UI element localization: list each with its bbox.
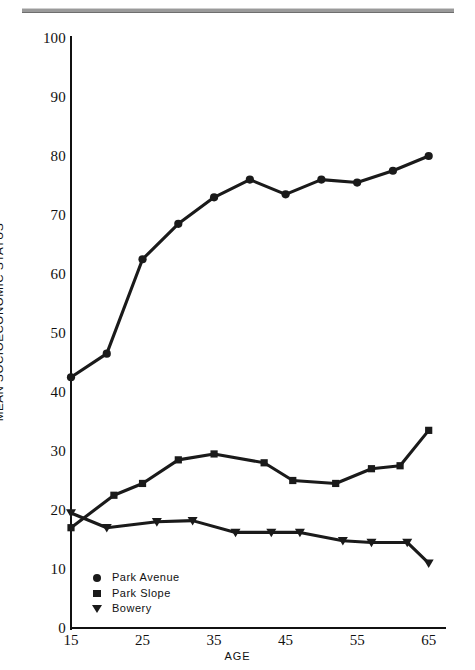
data-point-marker — [175, 456, 182, 463]
legend-item-bowery: Bowery — [88, 601, 180, 617]
filled-square-icon — [88, 590, 106, 598]
data-point-marker — [353, 178, 361, 186]
legend-item-park-slope: Park Slope — [88, 586, 180, 602]
data-point-marker — [138, 255, 146, 263]
data-point-marker — [110, 492, 117, 499]
data-point-marker — [261, 459, 268, 466]
data-point-marker — [139, 480, 146, 487]
series-line — [71, 513, 429, 563]
data-point-marker — [289, 477, 296, 484]
data-point-marker — [368, 465, 375, 472]
legend-label: Bowery — [106, 601, 152, 617]
chart-page: 1009080706050403020100 152535455565 MEAN… — [0, 0, 475, 670]
chart-legend: Park Avenue Park Slope Bowery — [88, 570, 180, 617]
series-line — [71, 430, 429, 527]
data-point-marker — [246, 176, 254, 184]
filled-circle-icon — [88, 574, 106, 582]
data-point-marker — [424, 559, 434, 568]
filled-triangle-down-icon — [88, 605, 106, 613]
data-point-marker — [425, 427, 432, 434]
data-point-marker — [103, 350, 111, 358]
data-point-marker — [332, 480, 339, 487]
data-point-marker — [389, 167, 397, 175]
data-point-marker — [396, 462, 403, 469]
chart-plot-area — [0, 0, 475, 670]
data-point-marker — [210, 450, 217, 457]
data-point-marker — [210, 193, 218, 201]
series-bowery — [66, 509, 434, 568]
series-park-slope — [67, 427, 432, 532]
data-point-marker — [317, 176, 325, 184]
data-point-marker — [174, 220, 182, 228]
series-line — [71, 156, 429, 377]
series-park-avenue — [67, 152, 433, 381]
legend-label: Park Avenue — [106, 570, 180, 586]
data-point-marker — [67, 524, 74, 531]
legend-label: Park Slope — [106, 586, 171, 602]
data-point-marker — [425, 152, 433, 160]
data-point-marker — [282, 190, 290, 198]
legend-item-park-avenue: Park Avenue — [88, 570, 180, 586]
data-point-marker — [67, 373, 75, 381]
